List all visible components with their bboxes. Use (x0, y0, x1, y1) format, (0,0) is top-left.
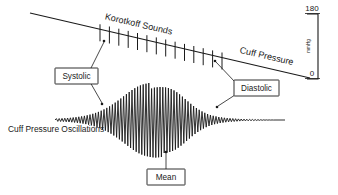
scale-bottom-value: 0 (310, 69, 315, 78)
systolic-callout-group[interactable]: Systolic (55, 40, 105, 106)
systolic-anchor-dot-lower (101, 103, 104, 106)
diastolic-leader-lower (218, 95, 235, 106)
scale-top-value: 180 (305, 4, 319, 13)
mean-anchor-dot (165, 151, 168, 154)
blood-pressure-diagram: Korotkoff Sounds Cuff Pressure 180 0 mmH… (0, 0, 338, 195)
diastolic-anchor-dot-upper (214, 60, 217, 63)
diastolic-label: Diastolic (241, 84, 272, 93)
pressure-scale-group: 180 0 mmHg (305, 4, 320, 79)
diastolic-anchor-dot-lower (216, 106, 219, 109)
systolic-leader-upper (90, 42, 104, 70)
systolic-label: Systolic (62, 72, 90, 81)
scale-unit-label: mmHg (306, 39, 311, 53)
diagram-canvas: Korotkoff Sounds Cuff Pressure 180 0 mmH… (0, 0, 338, 195)
oscillations-label: Cuff Pressure Oscillations (8, 124, 104, 134)
diastolic-leader-upper (216, 62, 235, 82)
scale-unit-group: mmHg (306, 39, 311, 53)
diastolic-callout-group[interactable]: Diastolic (214, 60, 279, 109)
mean-label: Mean (156, 173, 177, 182)
systolic-leader-lower (90, 82, 102, 103)
systolic-anchor-dot-upper (103, 40, 106, 43)
